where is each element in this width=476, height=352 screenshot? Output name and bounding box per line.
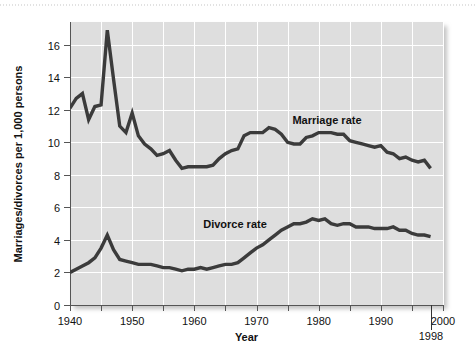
x-axis-title: Year bbox=[235, 331, 259, 343]
x-tick-label: 1980 bbox=[306, 315, 330, 327]
y-tick-label: 10 bbox=[48, 137, 60, 149]
marriage-rate-annotation: Marriage rate bbox=[292, 114, 361, 126]
y-axis-tick-labels: 0246810121416 bbox=[48, 40, 60, 312]
y-tick-label: 14 bbox=[48, 72, 60, 84]
x-axis-tick-labels: 1940195019601970198019902000 bbox=[58, 315, 455, 327]
x-tick-label: 1940 bbox=[58, 315, 82, 327]
x-tick-label: 1960 bbox=[182, 315, 206, 327]
x-tick-label: 1970 bbox=[244, 315, 268, 327]
end-year-callout-label: 1998 bbox=[419, 330, 443, 342]
x-tick-label: 1990 bbox=[369, 315, 393, 327]
y-tick-label: 2 bbox=[54, 267, 60, 279]
y-tick-label: 4 bbox=[54, 235, 60, 247]
y-tick-label: 0 bbox=[54, 300, 60, 312]
x-tick-label: 1950 bbox=[120, 315, 144, 327]
chart-figure: 0246810121416 19401950196019701980199020… bbox=[0, 0, 476, 352]
x-tick-label: 2000 bbox=[431, 315, 455, 327]
divorce-rate-annotation: Divorce rate bbox=[203, 218, 267, 230]
y-tick-label: 8 bbox=[54, 170, 60, 182]
y-tick-label: 16 bbox=[48, 40, 60, 52]
line-chart-canvas: 0246810121416 19401950196019701980199020… bbox=[0, 0, 476, 352]
y-tick-label: 6 bbox=[54, 202, 60, 214]
y-tick-label: 12 bbox=[48, 105, 60, 117]
y-axis-title: Marriages/divorces per 1,000 persons bbox=[12, 66, 24, 263]
y-axis-ticks bbox=[64, 46, 70, 306]
